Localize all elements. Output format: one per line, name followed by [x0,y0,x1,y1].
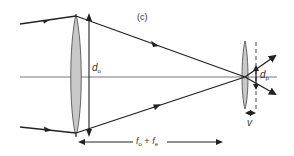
top-converging-ray [76,16,245,77]
bottom-converging-ray [76,77,245,133]
objective-diameter-label: do [92,63,101,74]
bottom-incoming-ray [20,127,76,133]
exit-pupil-diameter-label: dp [260,70,269,81]
objective-lens [71,14,82,137]
panel-label: (c) [137,13,148,22]
telescope-ray-diagram [0,0,294,156]
eye-relief-label: v [247,118,252,128]
eye-relief-arrow [245,110,256,116]
top-incoming-ray [20,16,76,24]
lens-separation-label: fo + fe [136,137,158,147]
objective-diameter-arrow [86,13,92,137]
exit-pupil-diameter-arrow [253,65,259,90]
